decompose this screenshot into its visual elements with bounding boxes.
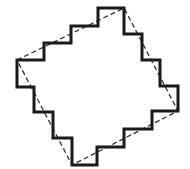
staircase-square-diagram [0,0,190,169]
